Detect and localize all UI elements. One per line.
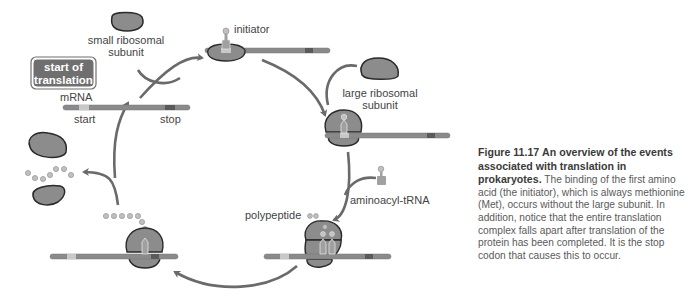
elongation-complex: polypeptide	[245, 209, 391, 267]
mrna-label: mRNA	[60, 91, 93, 103]
arrow-termination-to-disassembly	[84, 172, 118, 205]
aminoacyl-trna-free: aminoacyl-tRNA	[350, 166, 430, 206]
stop-label: stop	[160, 113, 181, 125]
figure-caption: Figure 11.17 An overview of the events a…	[478, 146, 688, 262]
met-amino-acid	[223, 28, 229, 34]
disassembled-components	[25, 133, 73, 205]
initiator-trna	[222, 40, 230, 49]
start-label: start	[74, 113, 95, 125]
arrow-large-subunit-join	[327, 65, 357, 105]
stop-codon	[165, 105, 175, 110]
badge-line1: start of	[44, 61, 83, 73]
released-large-subunit	[29, 133, 66, 158]
small-subunit-label-1: small ribosomal	[88, 34, 164, 46]
initiation-complex: initiator	[205, 23, 330, 61]
start-codon	[79, 105, 89, 110]
initiator-label: initiator	[234, 23, 270, 35]
free-mrna: mRNA start stop	[60, 91, 190, 125]
final-trna	[142, 238, 148, 254]
small-subunit-label-2: subunit	[108, 46, 143, 58]
released-polypeptide	[25, 166, 73, 181]
aminoacyl-trna-label: aminoacyl-tRNA	[350, 194, 430, 206]
large-subunit-label-2: subunit	[362, 99, 397, 111]
polypeptide-label: polypeptide	[245, 209, 301, 221]
arrow-initiation-to-full	[262, 60, 325, 115]
arrow-small-subunit-join	[138, 70, 180, 83]
arrow-mrna-to-initiation	[140, 58, 202, 98]
termination-complex	[50, 213, 178, 268]
figure-caption-body: The binding of the first amino acid (the…	[478, 174, 685, 261]
p-site-trna	[320, 239, 326, 254]
arrow-disassembly-to-mrna	[114, 103, 128, 178]
a-site-trna	[329, 239, 335, 254]
figure-number: Figure 11.17	[478, 146, 539, 158]
arrow-full-to-elongation	[334, 152, 349, 220]
arrow-elongation-to-termination	[175, 266, 297, 287]
start-of-translation-badge: start of translation	[31, 57, 96, 89]
small-subunit-free: small ribosomal subunit	[88, 13, 164, 59]
badge-line2: translation	[34, 74, 93, 86]
large-subunit-label-1: large ribosomal	[342, 87, 417, 99]
released-small-subunit	[33, 185, 65, 204]
full-ribosome-complex	[325, 110, 450, 146]
